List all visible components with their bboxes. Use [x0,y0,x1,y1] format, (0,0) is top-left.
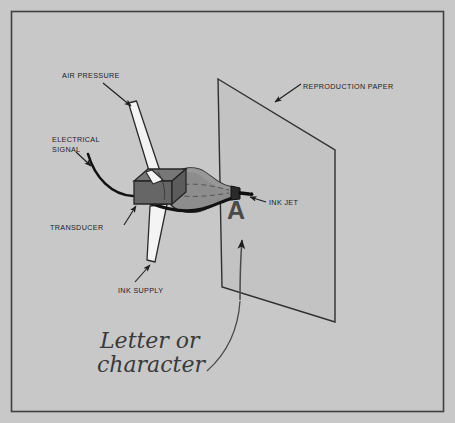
figure-canvas: A AIR PRESSURE ELECTRICAL SIGNAL TRANSDU… [0,0,455,423]
ink-jet-stream [240,193,249,194]
label-electrical-signal-line1: ELECTRICAL [52,135,100,144]
ink-droplet [250,192,254,196]
handwritten-note-line2: character [97,352,206,377]
printed-character-a: A [227,196,245,224]
handwritten-note-line1: Letter or [99,328,201,353]
label-reproduction-paper: REPRODUCTION PAPER [303,82,393,91]
label-transducer: TRANSDUCER [50,223,103,232]
label-electrical-signal-line2: SIGNAL [52,145,80,154]
label-air-pressure: AIR PRESSURE [62,71,120,80]
label-ink-supply: INK SUPPLY [118,286,163,295]
label-ink-jet: INK JET [269,198,298,207]
inkjet-diagram: A AIR PRESSURE ELECTRICAL SIGNAL TRANSDU… [0,0,455,423]
